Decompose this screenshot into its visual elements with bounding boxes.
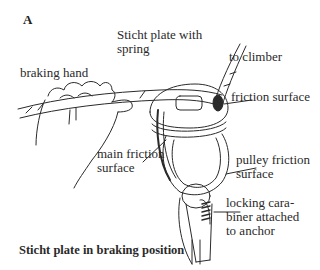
to-climber-label: to climber <box>229 50 282 64</box>
friction-surface-label: friction surface <box>231 90 310 104</box>
carabiner-label-line2: biner attached <box>226 210 299 224</box>
sticht-plate <box>150 84 228 137</box>
pulley-friction-label-line1: pulley friction <box>236 153 310 167</box>
sticht-plate-label-line2: spring <box>117 42 150 56</box>
carabiner-label-line1: locking cara- <box>226 196 294 210</box>
pulley-friction-label-line2: surface <box>236 167 274 181</box>
carabiner-label-line3: to anchor <box>226 224 275 238</box>
sticht-plate-label-line1: Sticht plate with <box>117 28 202 42</box>
figure-caption: Sticht plate in braking position <box>19 243 184 258</box>
belay-diagram: A Sticht plate with spring to climber br… <box>0 0 320 270</box>
braking-hand-label: braking hand <box>20 66 88 80</box>
panel-letter: A <box>23 12 32 28</box>
main-friction-label-line1: main friction <box>97 147 165 161</box>
main-friction-label-line2: surface <box>97 161 135 175</box>
